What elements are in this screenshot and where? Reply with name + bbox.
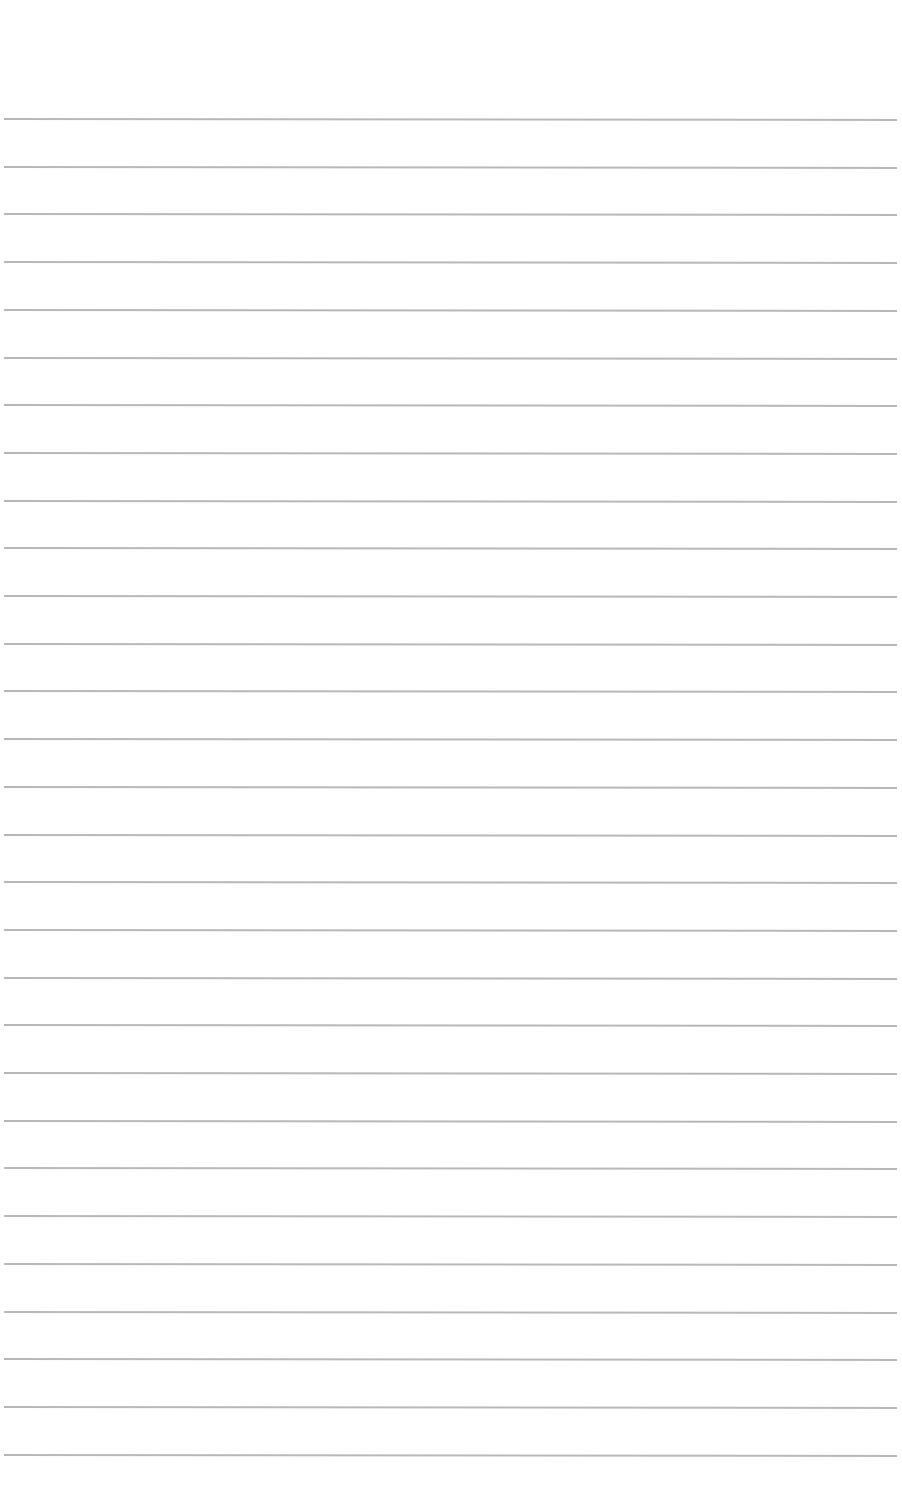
ruled-line — [4, 786, 897, 789]
ruled-line — [4, 404, 897, 407]
ruled-line — [4, 1215, 897, 1218]
ruled-line — [4, 166, 897, 169]
ruled-line — [4, 1024, 897, 1027]
ruled-paper-sheet — [0, 0, 902, 1485]
ruled-line — [4, 1406, 897, 1409]
ruled-line — [4, 1358, 897, 1361]
ruled-line — [4, 118, 897, 121]
ruled-line — [4, 1120, 897, 1123]
ruled-line — [4, 357, 897, 360]
ruled-line — [4, 643, 897, 646]
ruled-line — [4, 834, 897, 837]
ruled-line — [4, 1167, 897, 1170]
ruled-line — [4, 738, 897, 741]
ruled-line — [4, 261, 897, 264]
ruled-line — [4, 595, 897, 598]
ruled-line — [4, 1072, 897, 1075]
ruled-line — [4, 1311, 897, 1314]
ruled-line — [4, 977, 897, 980]
ruled-line — [4, 690, 897, 693]
ruled-line — [4, 929, 897, 932]
ruled-line — [4, 1263, 897, 1266]
ruled-line — [4, 547, 897, 550]
ruled-line — [4, 309, 897, 312]
ruled-line — [4, 881, 897, 884]
ruled-line — [4, 500, 897, 503]
ruled-line — [4, 213, 897, 216]
ruled-line — [4, 1454, 897, 1457]
ruled-line — [4, 452, 897, 455]
